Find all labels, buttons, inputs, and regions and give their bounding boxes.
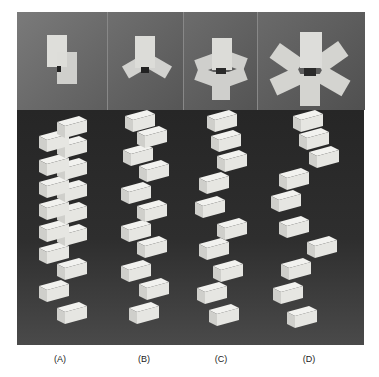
- panel-label-d: (D): [303, 354, 316, 364]
- stacks-view: [17, 110, 364, 345]
- top-view-a: [17, 12, 107, 110]
- blocks-top-view-d: [258, 12, 365, 110]
- top-view-strip: [17, 12, 364, 110]
- top-view-b: [107, 12, 184, 110]
- stack-b: [121, 110, 169, 324]
- blocks-top-view-c: [184, 12, 258, 110]
- top-view-c: [183, 12, 258, 110]
- stack-a: [39, 116, 87, 324]
- top-view-d: [257, 12, 365, 110]
- panel-label-c: (C): [215, 354, 228, 364]
- panel-label-b: (B): [138, 354, 150, 364]
- block-stacks: [17, 110, 364, 345]
- blocks-top-view-b: [108, 12, 184, 110]
- blocks-top-view-a: [17, 12, 107, 110]
- stack-d: [271, 110, 339, 328]
- panel-label-a: (A): [54, 354, 66, 364]
- stack-c: [195, 110, 247, 326]
- photograph: [17, 12, 364, 345]
